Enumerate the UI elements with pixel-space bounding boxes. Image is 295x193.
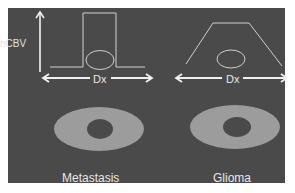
right-x-axis-label: Dx — [226, 73, 239, 85]
metastasis-lesion-icon — [54, 107, 144, 151]
glioma-profile-curve — [186, 23, 282, 68]
glioma-caption: Glioma — [213, 171, 251, 185]
metastasis-profile-curve — [50, 13, 145, 70]
diagram-graphics — [0, 0, 295, 193]
metastasis-caption: Metastasis — [62, 171, 119, 185]
left-x-axis-label: Dx — [93, 73, 106, 85]
y-axis-label: nCBV — [0, 38, 26, 49]
y-axis-arrow-icon — [36, 12, 44, 72]
glioma-lesion-icon — [190, 105, 280, 149]
